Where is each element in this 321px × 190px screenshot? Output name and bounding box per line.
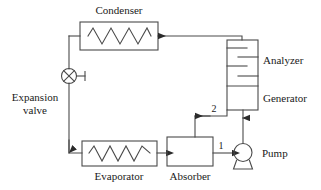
generator-label: Generator bbox=[263, 92, 307, 104]
vapour-line-analyzer-to-condenser bbox=[158, 36, 242, 40]
pump-body-icon bbox=[234, 144, 252, 162]
process-flow-diagram: Condenser Expansion valve Evaporator Abs… bbox=[0, 0, 321, 190]
evaporator-feed-corner bbox=[69, 140, 82, 153]
analyzer-label: Analyzer bbox=[263, 54, 304, 66]
evaporator-coil-icon bbox=[89, 146, 150, 161]
absorber-label: Absorber bbox=[170, 170, 211, 182]
condenser-body bbox=[80, 22, 158, 50]
absorber-body bbox=[167, 137, 213, 166]
column-body bbox=[227, 40, 258, 110]
stream-label-2: 2 bbox=[212, 103, 217, 114]
expansion-valve-label-line2: valve bbox=[23, 104, 47, 116]
generator-to-absorber-line bbox=[195, 110, 227, 137]
evaporator-label: Evaporator bbox=[95, 170, 144, 182]
stream-label-1: 1 bbox=[219, 140, 224, 151]
evaporator-body bbox=[82, 141, 157, 166]
condenser-coil-icon bbox=[88, 28, 151, 44]
condenser-label: Condenser bbox=[95, 4, 142, 16]
pump-label: Pump bbox=[262, 147, 288, 159]
expansion-valve-label-line1: Expansion bbox=[12, 91, 59, 103]
schematic-canvas: Condenser Expansion valve Evaporator Abs… bbox=[0, 0, 321, 190]
